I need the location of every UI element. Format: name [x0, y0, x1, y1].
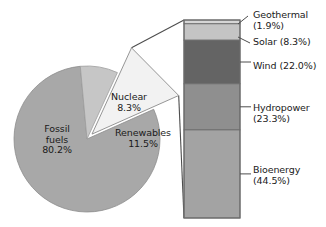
- callout-geothermal-value: (1.9%): [253, 21, 308, 32]
- pie-label-fossil-fuels: Fossil fuels 80.2%: [25, 124, 89, 156]
- pie-label-renewables: Renewables 11.5%: [108, 128, 178, 149]
- callout-wind-name: Wind (22.0%): [253, 61, 316, 72]
- renewables-stacked-bar: [184, 20, 240, 218]
- connector-line-bottom: [179, 96, 184, 219]
- bar-segment-solar[interactable]: [184, 24, 240, 40]
- callout-label-bioenergy: Bioenergy (44.5%): [253, 165, 300, 186]
- callout-hydropower-value: (23.3%): [253, 114, 310, 125]
- callout-label-hydropower: Hydropower (23.3%): [253, 103, 310, 124]
- pie-label-renewables-value: 11.5%: [108, 139, 178, 150]
- bar-segment-wind[interactable]: [184, 40, 240, 84]
- bar-segment-geothermal[interactable]: [184, 20, 240, 24]
- energy-mix-figure: Fossil fuels 80.2% Nuclear 8.3% Renewabl…: [0, 0, 326, 227]
- callout-solar-name: Solar (8.3%): [253, 37, 311, 48]
- callout-bioenergy-value: (44.5%): [253, 176, 300, 187]
- callout-label-geothermal: Geothermal (1.9%): [253, 10, 308, 31]
- connector-line-top: [132, 20, 185, 48]
- callout-label-solar: Solar (8.3%): [253, 37, 311, 48]
- pie-label-nuclear-value: 8.3%: [101, 103, 157, 114]
- pie-label-nuclear: Nuclear 8.3%: [101, 92, 157, 113]
- callout-label-wind: Wind (22.0%): [253, 61, 316, 72]
- pie-label-fossil-fuels-value: 80.2%: [25, 145, 89, 156]
- bar-segment-hydropower[interactable]: [184, 84, 240, 130]
- bar-segment-bioenergy[interactable]: [184, 130, 240, 218]
